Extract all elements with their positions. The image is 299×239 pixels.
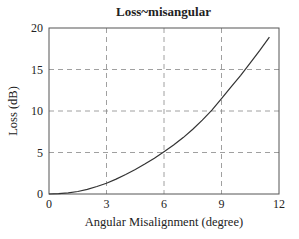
y-tick-label: 15: [31, 63, 43, 77]
y-tick-label: 10: [31, 104, 43, 118]
plot-area: 03691205101520: [0, 0, 299, 239]
y-tick-label: 20: [31, 21, 43, 35]
x-tick-label: 9: [219, 197, 225, 211]
y-axis-label: Loss (dB): [6, 86, 21, 136]
x-tick-label: 6: [161, 197, 167, 211]
y-tick-label: 0: [37, 187, 43, 201]
x-tick-label: 0: [46, 197, 52, 211]
grid-lines: [49, 28, 279, 194]
x-axis-label: Angular Misalignment (degree): [49, 215, 279, 230]
tick-labels: 03691205101520: [31, 21, 285, 211]
x-tick-label: 12: [273, 197, 285, 211]
loss-curve: [49, 37, 269, 194]
x-tick-label: 3: [104, 197, 110, 211]
y-tick-label: 5: [37, 146, 43, 160]
